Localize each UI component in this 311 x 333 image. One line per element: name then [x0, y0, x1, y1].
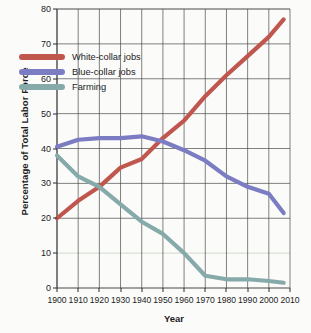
x-tick-label: 1940 — [132, 295, 151, 305]
x-tick-label: 1960 — [175, 295, 194, 305]
x-tick-label: 1990 — [238, 295, 257, 305]
legend-label: White-collar jobs — [72, 52, 141, 62]
x-tick-label: 1900 — [47, 295, 66, 305]
series-line — [57, 155, 284, 282]
x-tick-label: 2000 — [259, 295, 278, 305]
x-tick-label: 1950 — [153, 295, 172, 305]
x-tick-mark — [57, 288, 58, 292]
x-tick-label: 1970 — [196, 295, 215, 305]
chart-legend: White-collar jobsBlue-collar jobsFarming — [19, 52, 141, 92]
x-axis-label: Year — [57, 313, 291, 324]
x-tick-label: 1910 — [69, 295, 88, 305]
x-tick-label: 1930 — [111, 295, 130, 305]
y-tick-mark — [53, 253, 57, 254]
x-tick-mark — [99, 288, 100, 292]
x-tick-label: 1920 — [90, 295, 109, 305]
legend-item: Farming — [19, 82, 141, 92]
y-tick-mark — [53, 148, 57, 149]
legend-label: Farming — [72, 82, 106, 92]
legend-item: Blue-collar jobs — [19, 67, 141, 77]
x-tick-mark — [268, 288, 269, 292]
x-tick-mark — [120, 288, 121, 292]
y-tick-mark — [53, 218, 57, 219]
chart-svg — [57, 9, 290, 288]
y-tick-mark — [53, 183, 57, 184]
legend-swatch — [19, 84, 65, 90]
x-tick-mark — [226, 288, 227, 292]
legend-swatch — [19, 54, 65, 60]
x-tick-mark — [162, 288, 163, 292]
x-tick-label: 1980 — [217, 295, 236, 305]
y-tick-mark — [53, 9, 57, 10]
chart-figure: Percentage of Total Labor Force Year 010… — [0, 0, 311, 333]
x-tick-mark — [184, 288, 185, 292]
x-tick-mark — [247, 288, 248, 292]
legend-label: Blue-collar jobs — [72, 67, 136, 77]
x-tick-mark — [205, 288, 206, 292]
plot-area: 0102030405060708019001910192019301940195… — [57, 9, 290, 288]
legend-item: White-collar jobs — [19, 52, 141, 62]
x-tick-mark — [141, 288, 142, 292]
legend-swatch — [19, 69, 65, 75]
y-tick-mark — [53, 113, 57, 114]
series-line — [57, 136, 284, 213]
x-tick-mark — [78, 288, 79, 292]
x-tick-mark — [290, 288, 291, 292]
y-tick-mark — [53, 43, 57, 44]
x-tick-label: 2010 — [280, 295, 299, 305]
